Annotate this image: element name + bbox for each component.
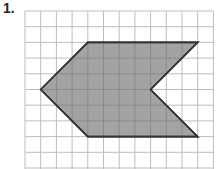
grid-figure: [0, 0, 222, 169]
